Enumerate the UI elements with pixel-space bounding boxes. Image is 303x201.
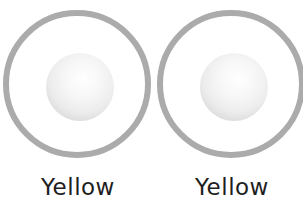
ball-icon (46, 53, 114, 121)
ring-icon (3, 10, 151, 158)
ring-icon (157, 10, 303, 158)
color-option-2[interactable]: Yellow (154, 0, 303, 201)
color-label: Yellow (0, 174, 156, 200)
color-option-1[interactable]: Yellow (0, 0, 156, 201)
color-label: Yellow (154, 174, 303, 200)
ball-icon (200, 53, 268, 121)
